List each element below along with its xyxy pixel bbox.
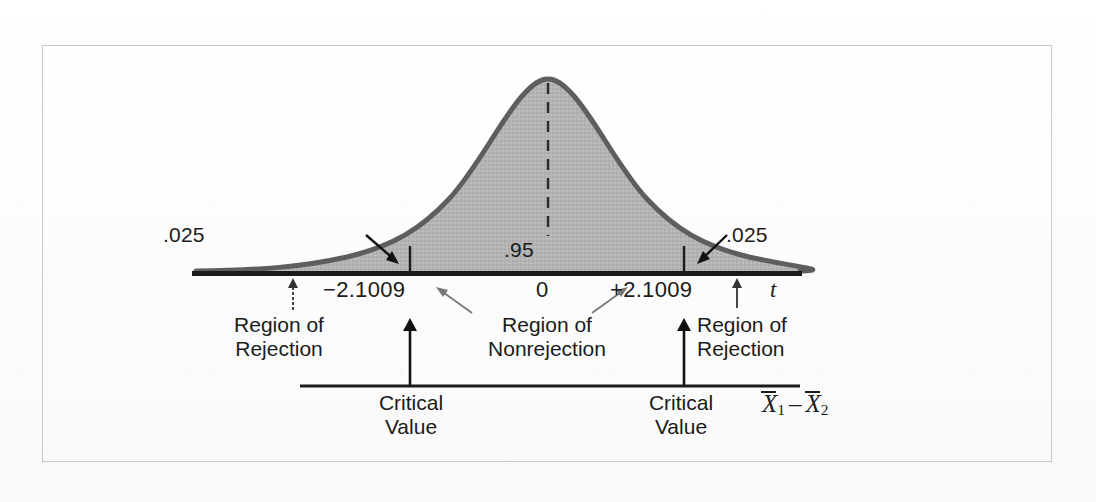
region-rejection-right-line2: Rejection [697,337,847,361]
tick-label-left: −2.1009 [323,278,405,302]
page-canvas: .025 .025 .95 −2.1009 0 +2.1009 t Region… [0,0,1096,502]
critical-value-left: Critical Value [338,391,484,438]
region-nonrejection-line1: Region of [452,313,642,337]
alpha-label-right: .025 [726,224,768,247]
leader-arrow-nonrejection-left [436,287,472,313]
x-bar-2-letter: X [806,390,821,417]
critical-value-left-line1: Critical [338,391,484,415]
region-nonrejection: Region of Nonrejection [452,313,642,360]
uptick-arrow-right-critical [732,278,742,308]
tick-label-center: 0 [536,278,549,302]
critical-value-left-line2: Value [338,415,484,439]
confidence-label: .95 [504,239,534,262]
minus-sign: – [785,390,806,417]
x-bar-2-subscript: 2 [821,401,829,418]
region-nonrejection-line2: Nonrejection [452,337,642,361]
x-bar-1-subscript: 1 [777,401,785,418]
critical-pointer-left [403,318,417,385]
region-rejection-right: Region of Rejection [697,313,847,360]
critical-pointer-right [677,318,691,385]
critical-value-right-line1: Critical [608,391,754,415]
x-bar-2: X [806,390,821,417]
uptick-arrow-left-critical [288,278,298,310]
critical-value-right-line2: Value [608,415,754,439]
tick-label-right: +2.1009 [610,278,692,302]
mean-difference-axis-label: X1–X2 [762,390,829,419]
region-rejection-left-line2: Rejection [186,337,372,361]
x-bar-1: X [762,390,777,417]
x-bar-1-letter: X [762,390,777,417]
region-rejection-left: Region of Rejection [186,313,372,360]
region-rejection-right-line1: Region of [697,313,847,337]
region-rejection-left-line1: Region of [186,313,372,337]
critical-value-right: Critical Value [608,391,754,438]
t-axis-label: t [770,278,776,303]
distribution-plot [0,0,1096,502]
alpha-label-left: .025 [163,224,205,247]
